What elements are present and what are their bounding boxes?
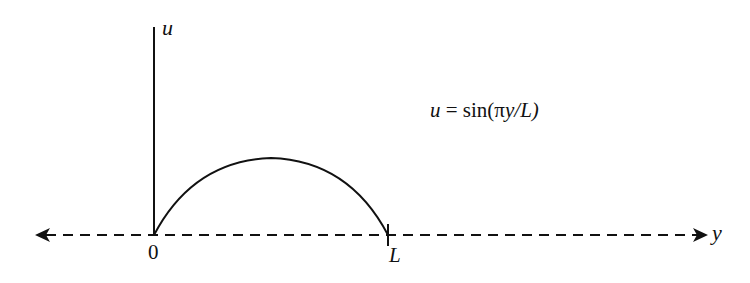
equation-lhs: u bbox=[430, 98, 441, 122]
sine-arch-curve bbox=[154, 158, 388, 235]
equation-pi: π bbox=[494, 98, 505, 122]
equation-close: ) bbox=[532, 98, 539, 122]
diagram-canvas bbox=[0, 0, 750, 283]
L-tick-label: L bbox=[389, 245, 401, 266]
curve-equation: u = sin(πy/L) bbox=[430, 100, 539, 121]
u-axis-label: u bbox=[162, 17, 173, 39]
equation-denom: L bbox=[520, 98, 532, 122]
origin-tick-label: 0 bbox=[148, 242, 159, 263]
equation-var: y bbox=[505, 98, 514, 122]
equation-equals: = bbox=[441, 98, 463, 122]
equation-func: sin( bbox=[463, 98, 495, 122]
y-axis-label: y bbox=[712, 222, 722, 244]
